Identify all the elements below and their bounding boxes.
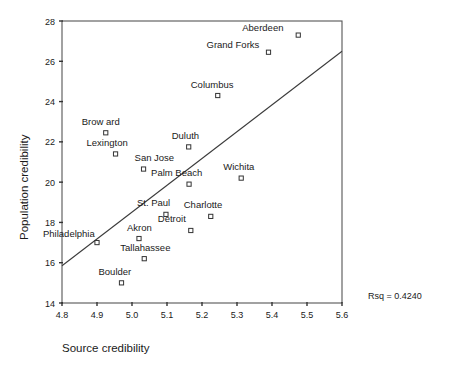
y-tick-label: 22	[45, 137, 55, 147]
data-point-label: Brow ard	[82, 116, 120, 127]
x-tick-label: 5.6	[336, 310, 349, 320]
y-tick-label: 24	[45, 97, 55, 107]
data-point-marker	[216, 93, 220, 97]
data-point-marker	[189, 228, 193, 232]
data-point-marker	[113, 152, 117, 156]
data-point-label: Tallahassee	[120, 242, 170, 253]
data-point-marker	[209, 214, 213, 218]
data-point-label: Philadelphia	[43, 228, 95, 239]
data-point-marker	[239, 176, 243, 180]
scatter-plot-figure: 14161820222426284.84.95.05.15.25.35.45.5…	[0, 0, 453, 372]
data-point-marker	[142, 257, 146, 261]
x-tick-label: 5.4	[266, 310, 279, 320]
data-point-marker	[187, 182, 191, 186]
data-point-label: Palm Beach	[151, 167, 202, 178]
data-point-label: Wichita	[223, 161, 255, 172]
x-tick-label: 5.0	[126, 310, 139, 320]
data-point-marker	[119, 281, 123, 285]
y-tick-label: 28	[45, 17, 55, 27]
y-tick-label: 14	[45, 299, 55, 309]
data-point-label: Duluth	[172, 130, 199, 141]
rsq-annotation: Rsq = 0.4240	[368, 291, 422, 301]
data-point-marker	[104, 131, 108, 135]
plot-frame	[62, 21, 342, 303]
x-tick-label: 5.5	[301, 310, 314, 320]
y-tick-label: 20	[45, 178, 55, 188]
data-point-label: Lexington	[87, 137, 128, 148]
y-tick-label: 18	[45, 218, 55, 228]
x-tick-label: 5.3	[231, 310, 244, 320]
axis-ticks	[59, 21, 342, 306]
plot-canvas: 14161820222426284.84.95.05.15.25.35.45.5…	[0, 0, 453, 372]
data-point-label: Boulder	[99, 266, 132, 277]
y-tick-label: 26	[45, 57, 55, 67]
x-tick-label: 5.2	[196, 310, 209, 320]
data-point-marker	[266, 50, 270, 54]
data-point-label: San Jose	[135, 152, 175, 163]
data-point-label: Akron	[127, 222, 152, 233]
x-axis-title: Source credibility	[62, 342, 150, 354]
x-tick-label: 5.1	[161, 310, 174, 320]
data-point-label: Grand Forks	[207, 39, 260, 50]
data-point-label: Aberdeen	[242, 22, 283, 33]
data-point-marker	[187, 145, 191, 149]
data-point-marker	[141, 167, 145, 171]
y-axis-title: Population credibility	[18, 134, 30, 240]
data-point-label: Charlotte	[184, 199, 223, 210]
x-tick-label: 4.9	[91, 310, 104, 320]
data-point-marker	[137, 236, 141, 240]
data-point-label: St. Paul	[137, 197, 170, 208]
plot-border	[62, 21, 342, 303]
x-tick-label: 4.8	[56, 310, 69, 320]
data-point-labels: AberdeenGrand ForksColumbusBrow ardLexin…	[43, 22, 283, 277]
data-point-label: Columbus	[191, 79, 234, 90]
y-tick-label: 16	[45, 258, 55, 268]
data-point-marker	[95, 240, 99, 244]
data-point-marker	[296, 33, 300, 37]
data-point-label: Detroit	[158, 213, 186, 224]
